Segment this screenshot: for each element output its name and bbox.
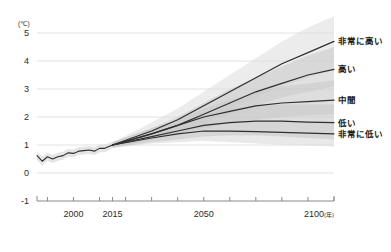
y-axis-tick-4: 4	[7, 56, 29, 66]
y-axis-tick-5: 5	[7, 28, 29, 38]
y-axis-tick-neg1: -1	[7, 196, 29, 206]
legend-label-1: 高い	[338, 64, 356, 74]
y-axis-tick-0: 0	[7, 168, 29, 178]
legend-label-2: 中間	[338, 95, 356, 105]
legend-label-3: 低い	[338, 118, 356, 128]
uncertainty-bands	[37, 16, 334, 166]
y-axis-tick-3: 3	[7, 84, 29, 94]
y-axis-tick-2: 2	[7, 112, 29, 122]
y-axis-tick-1: 1	[7, 140, 29, 150]
x-axis-tick-2100: 2100(年)	[304, 209, 360, 220]
x-axis	[37, 196, 334, 201]
x-axis-tick-2000: 2000	[53, 209, 93, 219]
x-axis-tick-2015: 2015	[93, 209, 133, 219]
x-axis-unit-label: (年)	[324, 212, 334, 218]
x-axis-tick-2050: 2050	[184, 209, 224, 219]
legend-label-4: 非常に低い	[338, 129, 383, 139]
chart-container: (℃) 543210-1 2000201520502100(年) 非常に高い高い…	[0, 0, 391, 252]
legend-label-0: 非常に高い	[338, 36, 383, 46]
